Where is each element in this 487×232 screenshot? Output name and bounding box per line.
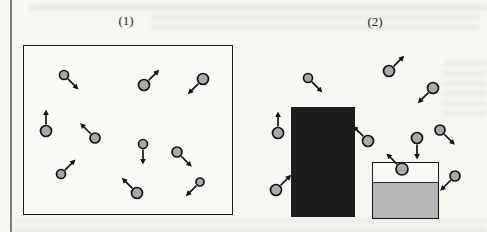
- gas-molecule: [353, 126, 374, 147]
- page-margin-rule: [10, 0, 12, 232]
- gas-molecule: [384, 56, 405, 77]
- figure-page: (1) (2): [0, 0, 487, 232]
- gas-molecule: [271, 175, 292, 196]
- print-bleed-through: [30, 0, 487, 9]
- gas-molecule: [412, 133, 423, 160]
- panel2-label: (2): [367, 14, 382, 30]
- gas-molecule: [435, 125, 455, 145]
- gas-container-box: [23, 45, 233, 215]
- liquid-surface: [373, 182, 438, 218]
- liquid-container: [372, 162, 439, 219]
- gas-molecule: [273, 112, 284, 139]
- print-bleed-through: [150, 13, 480, 29]
- print-bleed-through: [443, 60, 487, 115]
- gas-molecule: [418, 83, 439, 104]
- print-bleed-through: [14, 220, 487, 232]
- panel1-label: (1): [118, 13, 133, 29]
- gas-molecule: [304, 74, 323, 93]
- solid-block: [291, 107, 355, 217]
- gas-molecule: [440, 171, 460, 191]
